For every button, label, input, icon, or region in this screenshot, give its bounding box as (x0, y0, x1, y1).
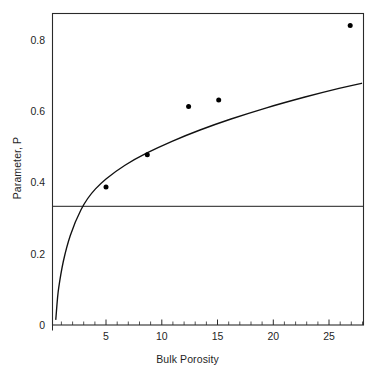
data-point (145, 152, 150, 157)
y-tick-label: 0.2 (30, 248, 45, 260)
x-axis-tick-labels: 5 10 15 20 25 (103, 330, 335, 342)
y-tick-label: 0.6 (30, 105, 45, 117)
x-tick-label: 25 (323, 330, 335, 342)
x-tick-label: 20 (267, 330, 279, 342)
fit-curve (56, 83, 362, 319)
data-point (216, 98, 221, 103)
x-axis-title: Bulk Porosity (0, 353, 375, 365)
y-tick-label: 0 (39, 319, 45, 331)
y-axis-title: Parameter, P (11, 118, 23, 218)
data-points (104, 23, 353, 189)
data-point (348, 23, 353, 28)
x-tick-label: 10 (156, 330, 168, 342)
plot-frame (53, 14, 364, 326)
figure-panel: 5 10 15 20 25 0 0.2 0.4 0.6 0.8 Bulk Por… (0, 0, 375, 374)
y-tick-label: 0.4 (30, 176, 45, 188)
y-axis-tick-labels: 0 0.2 0.4 0.6 0.8 (30, 34, 45, 331)
x-tick-label: 5 (103, 330, 109, 342)
chart-canvas: 5 10 15 20 25 0 0.2 0.4 0.6 0.8 (0, 0, 375, 374)
data-point (104, 184, 109, 189)
y-tick-label: 0.8 (30, 34, 45, 46)
x-tick-label: 15 (212, 330, 224, 342)
data-point (186, 104, 191, 109)
figure-caption-strip (0, 367, 375, 374)
